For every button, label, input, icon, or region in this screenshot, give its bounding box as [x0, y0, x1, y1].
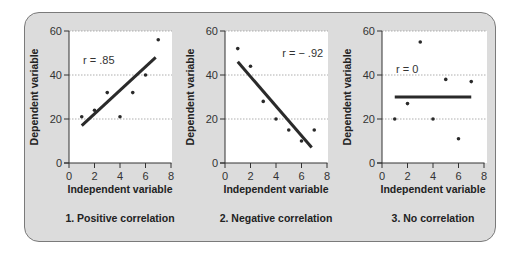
y-tick-label: 40 [363, 69, 375, 81]
x-tick-label: 8 [481, 170, 487, 182]
data-point [156, 38, 160, 42]
chart-panel-1: 020406002468Independent variableDependen… [28, 25, 175, 224]
data-point [261, 100, 265, 104]
x-tick-label: 4 [273, 170, 279, 182]
data-point [105, 91, 109, 95]
y-tick-label: 60 [50, 25, 62, 37]
y-tick-label: 20 [363, 113, 375, 125]
y-tick-label: 60 [206, 25, 218, 37]
y-tick-label: 40 [50, 69, 62, 81]
data-point [287, 128, 291, 132]
x-tick-label: 2 [404, 170, 410, 182]
x-tick-label: 4 [117, 170, 123, 182]
data-point [457, 137, 461, 141]
x-tick-label: 8 [168, 170, 174, 182]
data-point [249, 64, 253, 68]
data-point [406, 102, 410, 106]
data-point [312, 128, 316, 132]
y-tick-label: 40 [206, 69, 218, 81]
correlation-coefficient-label: r = − .92 [282, 47, 323, 59]
y-tick-label: 0 [369, 157, 375, 169]
y-tick-label: 20 [50, 113, 62, 125]
y-tick-label: 0 [212, 157, 218, 169]
x-tick-label: 6 [455, 170, 461, 182]
data-point [300, 139, 304, 143]
data-point [118, 115, 122, 119]
x-tick-label: 0 [66, 170, 72, 182]
data-point [93, 108, 97, 112]
y-tick-label: 60 [363, 25, 375, 37]
data-point [236, 47, 240, 51]
plot-area [69, 31, 172, 163]
chart-panel-3: 020406002468Independent variableDependen… [341, 25, 487, 224]
y-tick-label: 20 [206, 113, 218, 125]
correlation-charts: 020406002468Independent variableDependen… [0, 0, 521, 256]
chart-caption: 1. Positive correlation [65, 212, 174, 224]
x-tick-label: 0 [379, 170, 385, 182]
data-point [469, 80, 473, 84]
chart-caption: 3. No correlation [392, 212, 475, 224]
data-point [274, 117, 278, 121]
x-tick-label: 4 [430, 170, 436, 182]
x-tick-label: 6 [142, 170, 148, 182]
x-axis-title: Independent variable [380, 183, 485, 195]
data-point [144, 73, 148, 77]
x-axis-title: Independent variable [223, 183, 328, 195]
data-point [444, 78, 448, 82]
chart-panel-2: 020406002468Independent variableDependen… [184, 25, 332, 224]
chart-caption: 2. Negative correlation [220, 212, 333, 224]
correlation-coefficient-label: r = .85 [83, 54, 115, 66]
data-point [431, 117, 435, 121]
data-point [393, 117, 397, 121]
x-tick-label: 6 [298, 170, 304, 182]
y-axis-title: Dependent variable [184, 48, 196, 145]
y-axis-title: Dependent variable [28, 48, 40, 145]
data-point [418, 40, 422, 44]
y-axis-title: Dependent variable [341, 48, 353, 145]
x-axis-title: Independent variable [67, 183, 172, 195]
data-point [131, 91, 135, 95]
correlation-coefficient-label: r = 0 [396, 63, 418, 75]
x-tick-label: 8 [324, 170, 330, 182]
x-tick-label: 2 [91, 170, 97, 182]
x-tick-label: 2 [247, 170, 253, 182]
data-point [80, 115, 84, 119]
y-tick-label: 0 [56, 157, 62, 169]
x-tick-label: 0 [222, 170, 228, 182]
